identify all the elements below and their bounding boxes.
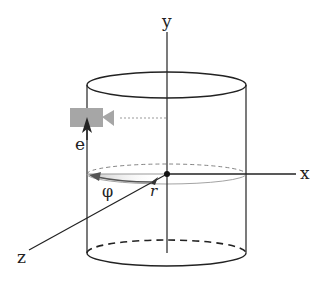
camera-icon	[70, 108, 114, 127]
radius-label: r	[150, 184, 157, 199]
z-axis	[29, 174, 167, 250]
origin-point	[164, 171, 170, 177]
cylinder-diagram	[0, 0, 327, 285]
cylinder-bottom-front	[87, 253, 246, 266]
phi-angle-label: φ	[102, 184, 113, 200]
x-axis-label: x	[300, 165, 310, 182]
z-axis-label: z	[17, 249, 26, 266]
e-vector-label: e	[75, 136, 85, 153]
y-axis-label: y	[162, 13, 172, 30]
